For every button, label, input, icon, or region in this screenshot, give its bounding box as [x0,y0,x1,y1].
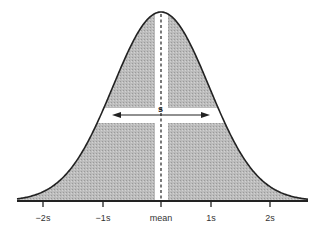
normal-distribution-figure: s −2s−1smean1s2s [0,0,322,233]
sd-width-label: s [158,104,163,114]
tick-label: mean [150,213,173,223]
tick-label: 2s [265,213,275,223]
tick-label: −1s [96,213,111,223]
bell-curve-diagram [0,0,322,233]
tick-label: −2s [36,213,51,223]
tick-label: 1s [206,213,216,223]
